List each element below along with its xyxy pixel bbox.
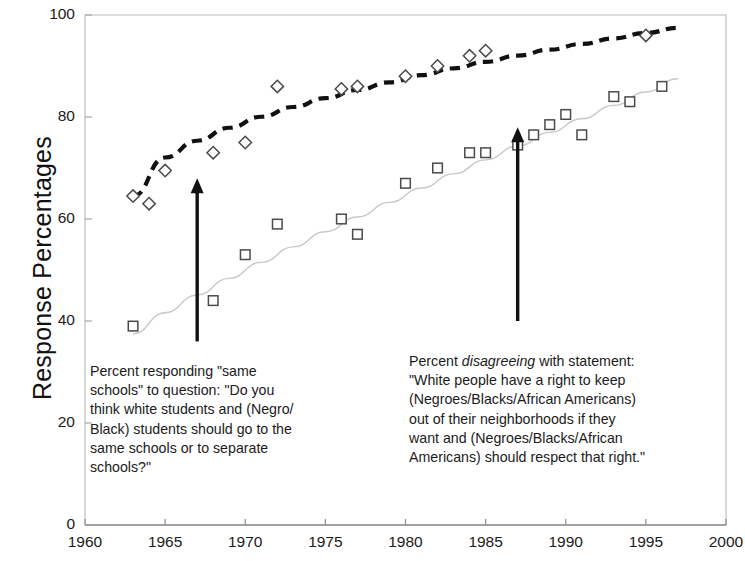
x-tick-label: 1985 bbox=[456, 533, 516, 551]
annotation-line: out of their neighborhoods if they bbox=[409, 410, 709, 429]
x-tick-label: 2000 bbox=[696, 533, 745, 551]
x-tick-label: 1980 bbox=[376, 533, 436, 551]
x-tick-label: 1990 bbox=[536, 533, 596, 551]
annotation-line: "White people have a right to keep bbox=[409, 371, 709, 390]
x-tick-label: 1995 bbox=[616, 533, 676, 551]
annotation-emphasis-text: disagreeing bbox=[462, 353, 535, 369]
annotation-right-text: Percent disagreeing with statement:"Whit… bbox=[409, 352, 709, 467]
annotation-line: Percent responding "same bbox=[90, 362, 335, 381]
x-tick-label: 1970 bbox=[215, 533, 275, 551]
annotation-line: same schools or to separate bbox=[90, 439, 335, 458]
annotation-tail-text: with statement: bbox=[535, 353, 634, 369]
chart-figure: Response Percentages 100806040200 196019… bbox=[0, 0, 745, 561]
annotation-lead-text: Percent bbox=[409, 353, 462, 369]
y-axis-label: Response Percentages bbox=[28, 136, 57, 400]
data-markers bbox=[127, 29, 667, 331]
annotation-line: (Negroes/Blacks/African Americans) bbox=[409, 390, 709, 409]
annotation-line: schools?" bbox=[90, 458, 335, 477]
annotation-left-text: Percent responding "sameschools" to ques… bbox=[90, 362, 335, 477]
annotation-line: Americans) should respect that right." bbox=[409, 448, 709, 467]
y-tick-label: 80 bbox=[20, 107, 75, 125]
x-tick-label: 1975 bbox=[295, 533, 355, 551]
y-tick-label: 100 bbox=[20, 5, 75, 23]
x-axis-ticks bbox=[85, 519, 726, 525]
y-tick-label: 0 bbox=[20, 515, 75, 533]
annotation-line: think white students and (Negro/ bbox=[90, 400, 335, 419]
annotation-line: Percent disagreeing with statement: bbox=[409, 352, 709, 371]
annotation-line: Black) students should go to the bbox=[90, 420, 335, 439]
annotation-line: schools" to question: "Do you bbox=[90, 381, 335, 400]
y-tick-label: 20 bbox=[20, 413, 75, 431]
y-tick-label: 60 bbox=[20, 209, 75, 227]
x-tick-label: 1960 bbox=[55, 533, 115, 551]
y-tick-label: 40 bbox=[20, 311, 75, 329]
x-tick-label: 1965 bbox=[135, 533, 195, 551]
annotation-line: want and (Negroes/Blacks/African bbox=[409, 429, 709, 448]
